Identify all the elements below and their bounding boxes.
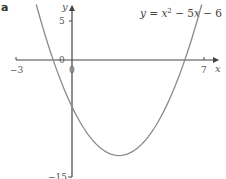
y-axis-label: y (61, 1, 68, 12)
x-tick-label-7: 7 (201, 65, 207, 75)
y-tick-label-neg15: −15 (48, 172, 67, 179)
equation-label: y = x2 − 5x − 6 (139, 7, 222, 19)
parabola-curve (36, 5, 201, 156)
parabola-chart: a −3 0 7 5 0 −15 y x y = x2 − 5x − 6 (0, 0, 226, 179)
x-axis-label: x (215, 63, 221, 74)
x-tick-label-0: 0 (69, 65, 75, 75)
panel-label: a (1, 1, 8, 14)
y-tick-label-5: 5 (59, 16, 65, 26)
equation-term2: − 5 (172, 7, 194, 19)
x-tick-label-neg3: −3 (10, 65, 24, 75)
y-tick-label-0: 0 (59, 55, 65, 65)
equation-term3: − 6 (200, 7, 222, 19)
